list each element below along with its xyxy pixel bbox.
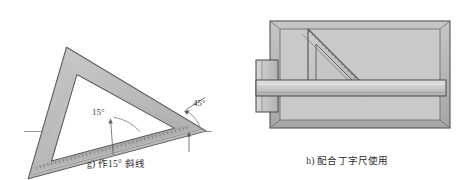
drawing-board-surface — [280, 29, 440, 120]
t-square-blade — [256, 80, 446, 96]
figure-caption-g: g) 作15° 斜线 — [0, 156, 232, 170]
set-square-30-60-90 — [0, 18, 206, 179]
figure-caption-h: h) 配合丁字尺使用 — [232, 153, 463, 167]
drawing-board — [270, 21, 450, 128]
figure-sheet: 15° 45° g) 作15° 斜线 — [0, 0, 463, 180]
figure-panel-g: 15° 45° g) 作15° 斜线 — [0, 0, 232, 180]
figure-g-drawing — [0, 0, 232, 180]
figure-panel-h: h) 配合丁字尺使用 — [232, 0, 463, 180]
angle-label-45: 45° — [193, 98, 206, 108]
angle-label-15: 15° — [92, 107, 105, 117]
